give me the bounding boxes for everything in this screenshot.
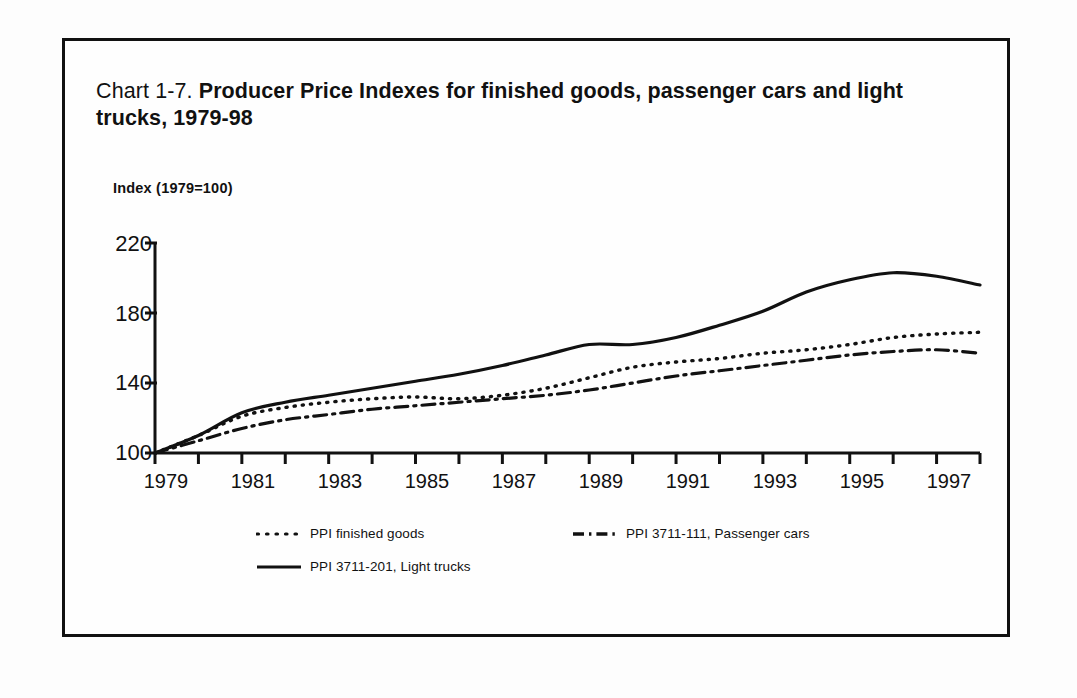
page-canvas: Chart 1-7. Producer Price Indexes for fi…	[0, 0, 1077, 698]
y-axis-unit-label: Index (1979=100)	[113, 180, 233, 196]
x-tick-label-1983: 1983	[300, 470, 380, 493]
legend-item-light-trucks: PPI 3711-201, Light trucks	[256, 559, 471, 574]
x-tick-label-1981: 1981	[213, 470, 293, 493]
x-tick-label-1997: 1997	[909, 470, 989, 493]
x-tick-label-1993: 1993	[735, 470, 815, 493]
x-tick-label-1991: 1991	[648, 470, 728, 493]
solid-line-icon	[256, 561, 302, 573]
chart-title-text: Producer Price Indexes for finished good…	[96, 79, 903, 130]
x-tick-label-1979: 1979	[126, 470, 206, 493]
dash-dot-line-icon	[572, 528, 618, 540]
chart-title: Chart 1-7. Producer Price Indexes for fi…	[96, 78, 926, 132]
y-tick-label-140: 140	[96, 370, 152, 396]
legend-item-passenger-cars: PPI 3711-111, Passenger cars	[572, 526, 810, 541]
legend-label-passenger-cars: PPI 3711-111, Passenger cars	[626, 526, 810, 541]
y-tick-label-220: 220	[96, 231, 152, 257]
x-tick-label-1989: 1989	[561, 470, 641, 493]
dotted-line-icon	[256, 528, 302, 540]
y-tick-label-100: 100	[96, 440, 152, 466]
x-tick-label-1995: 1995	[822, 470, 902, 493]
legend-label-finished-goods: PPI finished goods	[310, 526, 424, 541]
legend-label-light-trucks: PPI 3711-201, Light trucks	[310, 559, 471, 574]
chart-number-label: Chart 1-7.	[96, 79, 193, 103]
legend-item-finished-goods: PPI finished goods	[256, 526, 424, 541]
x-tick-label-1987: 1987	[474, 470, 554, 493]
x-tick-label-1985: 1985	[387, 470, 467, 493]
y-tick-label-180: 180	[96, 301, 152, 327]
